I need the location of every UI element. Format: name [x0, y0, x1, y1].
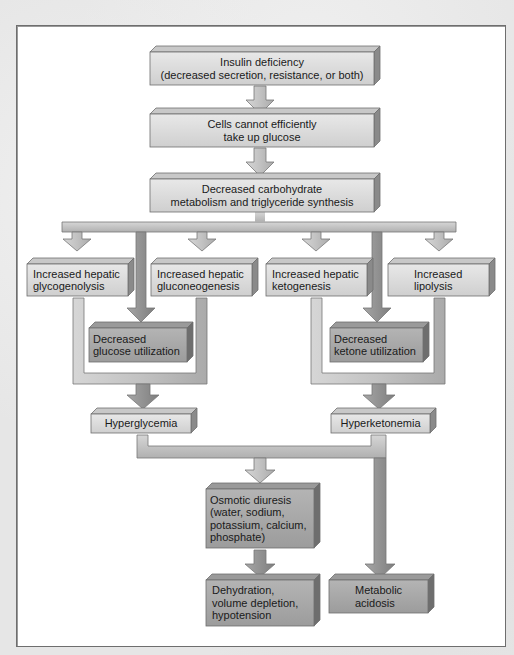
node-text: (water, sodium, — [210, 506, 285, 519]
arrow-cells-to-decreased-carb — [246, 148, 274, 176]
arrow-to-osmotic-diuresis — [245, 458, 275, 483]
node-dehydration: Dehydration, volume depletion, hypotensi… — [206, 580, 314, 626]
node-osmotic-diuresis: Osmotic diuresis (water, sodium, potassi… — [206, 489, 314, 548]
arrow-to-glycogenolysis — [63, 232, 91, 251]
node-metabolic-acidosis: Metabolic acidosis — [329, 580, 428, 613]
node-text: ketogenesis — [272, 280, 331, 293]
node-decreased-ketone-util: Decreased ketone utilization — [330, 328, 423, 362]
arrow-to-hyperglycemia — [127, 384, 159, 409]
node-text: Increased hepatic — [33, 268, 120, 281]
bus-stem — [255, 212, 265, 222]
node-text: ketone utilization — [334, 345, 416, 358]
node-decreased-carb: Decreased carbohydrate metabolism and tr… — [150, 179, 374, 212]
node-text: Dehydration, — [212, 584, 274, 597]
node-text: Decreased — [334, 333, 387, 346]
node-text: take up glucose — [223, 131, 300, 144]
node-hyperglycemia: Hyperglycemia — [91, 414, 191, 433]
node-gluconeogenesis: Increased hepatic gluconeogenesis — [151, 264, 252, 296]
node-text: Increased — [414, 268, 462, 281]
node-cells-cannot: Cells cannot efficiently take up glucose — [150, 114, 374, 147]
node-text: volume depletion, — [212, 597, 298, 610]
node-text: lipolysis — [414, 280, 453, 293]
node-text: Decreased — [93, 333, 146, 346]
arrow-to-gluconeogenesis — [188, 232, 216, 251]
arrow-to-hyperketonemia — [363, 384, 395, 409]
node-text: Hyperketonemia — [340, 417, 420, 430]
node-text: acidosis — [355, 597, 395, 610]
node-text: glucose utilization — [93, 345, 180, 358]
node-glycogenolysis: Increased hepatic glycogenolysis — [27, 264, 128, 296]
node-hyperketonemia: Hyperketonemia — [331, 414, 430, 433]
node-ketogenesis: Increased hepatic ketogenesis — [266, 264, 367, 296]
node-decreased-glucose-util: Decreased glucose utilization — [89, 328, 187, 362]
bus-horizontal — [62, 222, 456, 232]
node-text: Cells cannot efficiently — [207, 118, 316, 131]
arrow-to-metabolic-acidosis — [365, 458, 395, 578]
node-text: glycogenolysis — [33, 280, 105, 293]
node-text: (decreased secretion, resistance, or bot… — [161, 69, 364, 82]
lower-bus — [137, 435, 386, 458]
node-insulin-deficiency: Insulin deficiency (decreased secretion,… — [150, 52, 374, 85]
node-text: Increased hepatic — [272, 268, 359, 281]
node-text: phosphate) — [210, 531, 265, 544]
flowchart-diagram — [0, 0, 514, 655]
node-text: metabolism and triglyceride synthesis — [171, 196, 354, 209]
arrow-to-dehydration — [245, 550, 275, 577]
arrow-to-ketogenesis — [302, 232, 330, 251]
node-text: Osmotic diuresis — [210, 494, 291, 507]
node-text: hypotension — [212, 609, 271, 622]
node-text: Insulin deficiency — [220, 56, 304, 69]
node-text: potassium, calcium, — [210, 519, 307, 532]
node-text: Increased hepatic — [157, 268, 244, 281]
node-text: Decreased carbohydrate — [202, 183, 322, 196]
arrow-to-lipolysis — [425, 232, 453, 251]
node-text: Hyperglycemia — [105, 417, 178, 430]
node-text: Metabolic — [355, 584, 402, 597]
node-lipolysis: Increased lipolysis — [388, 264, 489, 296]
node-text: gluconeogenesis — [157, 280, 240, 293]
